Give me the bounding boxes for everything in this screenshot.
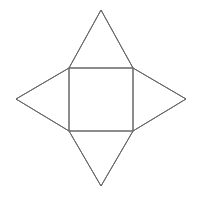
canvas-background bbox=[0, 0, 199, 197]
figure-canvas bbox=[0, 0, 199, 197]
geometric-net-svg bbox=[0, 0, 199, 197]
